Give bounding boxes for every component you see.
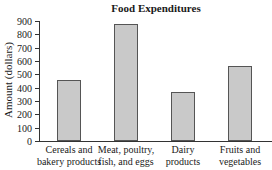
y-tick-label: 700: [17, 42, 32, 53]
y-tick-label: 0: [27, 136, 32, 147]
y-tick: [35, 141, 39, 142]
y-tick-label: 500: [17, 69, 32, 80]
y-tick-label: 900: [17, 16, 32, 27]
y-tick: [35, 114, 39, 115]
bar: [171, 92, 195, 141]
y-axis-label: Amount (dollars): [2, 42, 14, 118]
y-tick: [35, 61, 39, 62]
y-tick: [35, 128, 39, 129]
y-tick-label: 600: [17, 56, 32, 67]
y-tick-label: 100: [17, 122, 32, 133]
y-axis: [39, 21, 40, 141]
bar: [228, 66, 252, 141]
x-axis: [39, 141, 272, 142]
y-tick: [35, 74, 39, 75]
y-tick-label: 200: [17, 109, 32, 120]
x-tick-label: Fruits andvegetables: [205, 144, 272, 168]
y-tick: [35, 48, 39, 49]
y-tick-label: 800: [17, 29, 32, 40]
y-tick: [35, 34, 39, 35]
y-tick-label: 300: [17, 96, 32, 107]
chart-title: Food Expenditures: [40, 2, 272, 14]
x-tick-label-line: vegetables: [205, 156, 272, 168]
y-tick: [35, 88, 39, 89]
x-tick-label-line: Fruits and: [205, 144, 272, 156]
y-tick-label: 400: [17, 82, 32, 93]
y-tick: [35, 21, 39, 22]
bar: [114, 24, 138, 141]
bar: [57, 80, 81, 141]
y-tick: [35, 101, 39, 102]
